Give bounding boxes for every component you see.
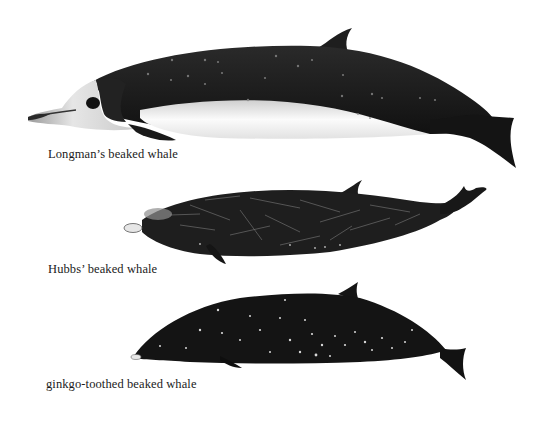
caption-hubbs-beaked-whale: Hubbs’ beaked whale xyxy=(48,262,157,277)
whale-illustration-plate: Longman’s beaked whale Hubbs’ beaked wha… xyxy=(0,0,546,425)
hubbs-beaked-whale-figure xyxy=(124,180,487,264)
caption-longmans-beaked-whale: Longman’s beaked whale xyxy=(48,147,178,162)
caption-ginkgo-toothed-beaked-whale: ginkgo-toothed beaked whale xyxy=(46,377,197,392)
ginkgo-toothed-beaked-whale-figure xyxy=(131,282,466,380)
whales-illustration xyxy=(0,0,546,425)
